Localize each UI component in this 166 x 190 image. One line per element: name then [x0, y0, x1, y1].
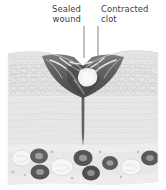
label-sealed-wound-line2: wound: [39, 14, 81, 24]
label-contracted-clot: Contracted clot: [101, 4, 165, 25]
label-sealed-wound-line1: Sealed: [39, 4, 81, 14]
label-sealed-wound: Sealed wound: [39, 4, 81, 25]
label-contracted-clot-line2: clot: [101, 14, 165, 24]
label-contracted-clot-line1: Contracted: [101, 4, 165, 14]
skin-cross-section-illustration: [0, 0, 166, 190]
tissue-block: [0, 45, 166, 188]
hypodermis-layer: [0, 140, 166, 188]
wound-healing-figure: Sealed wound Contracted clot: [0, 0, 166, 190]
